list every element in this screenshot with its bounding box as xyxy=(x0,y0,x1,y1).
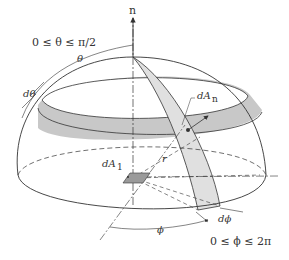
base-ellipse-back xyxy=(18,147,266,175)
dA1-element xyxy=(123,173,150,183)
theta-label: θ xyxy=(77,53,83,64)
dAn-subscript: n xyxy=(212,94,218,104)
dA1-label: dA xyxy=(102,158,116,169)
phi-label: ϕ xyxy=(157,224,164,235)
phi-range-label: 0 ≤ ϕ ≤ 2π xyxy=(210,235,271,248)
d-phi-label: dϕ xyxy=(218,213,231,224)
dA1-subscript: 1 xyxy=(117,162,123,172)
dAn-label: dA xyxy=(197,90,211,101)
theta-range-label: 0 ≤ θ ≤ π/2 xyxy=(32,36,96,49)
hemisphere-diagram: n 0 ≤ θ ≤ π/2 θ dθ dA n dA 1 r ϕ dϕ 0 ≤ … xyxy=(0,0,289,260)
normal-label: n xyxy=(129,4,136,17)
r-label: r xyxy=(162,153,168,164)
d-theta-label: dθ xyxy=(23,88,35,99)
